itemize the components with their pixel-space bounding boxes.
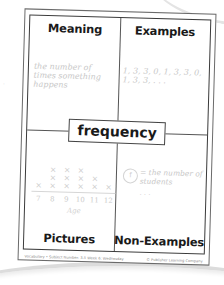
examples-quadrant: Examples 1, 3, 3, 0, 1, 3, 3, 0, 1, 3, 3…: [117, 18, 210, 135]
dot-column: ×××: [47, 166, 58, 190]
footer-copyright: © Publisher Learning Company: [146, 258, 202, 264]
tick-label: 9: [60, 196, 72, 204]
tick-label: 11: [88, 196, 100, 204]
meaning-definition: the number of times something happens: [33, 62, 114, 91]
footer-course-info: Vocabulary • Subject Number: 3-5 Week 6:…: [25, 254, 124, 261]
non-examples-quadrant: f = the number of students . . . Non-Exa…: [114, 132, 207, 253]
meaning-title: Meaning: [30, 21, 120, 38]
tick-label: 12: [102, 197, 114, 205]
dot-mark: ×: [77, 183, 84, 191]
dot-column: ×: [33, 182, 43, 190]
dot-plot-axis-title: Age: [31, 206, 117, 216]
tick-label: 10: [74, 196, 86, 204]
tick-label: 8: [46, 195, 58, 203]
tick-label: 7: [32, 195, 44, 203]
dot-mark: ×: [35, 182, 42, 190]
examples-title: Examples: [120, 23, 210, 40]
vocabulary-word: frequency: [68, 119, 166, 146]
dot-column: ×××: [61, 167, 72, 191]
vocabulary-card: Meaning the number of times something ha…: [18, 8, 217, 265]
circled-variable: f: [123, 168, 138, 183]
non-example-ellipsis: . . .: [139, 189, 150, 197]
examples-sequence: 1, 3, 3, 0, 1, 3, 3, 0, 1, 3, 3, . . .: [122, 66, 210, 86]
non-examples-title: Non-Examples: [114, 233, 204, 250]
pictures-title: Pictures: [24, 230, 114, 247]
margin-mark: ·: [3, 80, 5, 87]
dot-plot: × ××× ××× ××× ×× × 7 8 9 10 11 12 Age: [31, 148, 119, 210]
dot-mark: ×: [91, 183, 98, 191]
dot-mark: ×: [49, 182, 56, 190]
non-example-statement: = the number of students: [140, 168, 206, 188]
frayer-grid: Meaning the number of times something ha…: [23, 15, 211, 255]
dot-column: ××: [89, 175, 99, 191]
dot-column: ×××: [75, 167, 86, 191]
meaning-quadrant: Meaning the number of times something ha…: [27, 16, 120, 133]
dot-column: ×: [103, 184, 113, 192]
dot-mark: ×: [105, 184, 112, 192]
pictures-quadrant: × ××× ××× ××× ×× × 7 8 9 10 11 12 Age Pi…: [24, 130, 117, 251]
paper-curl-bottom: [0, 262, 224, 285]
dot-mark: ×: [63, 183, 70, 191]
